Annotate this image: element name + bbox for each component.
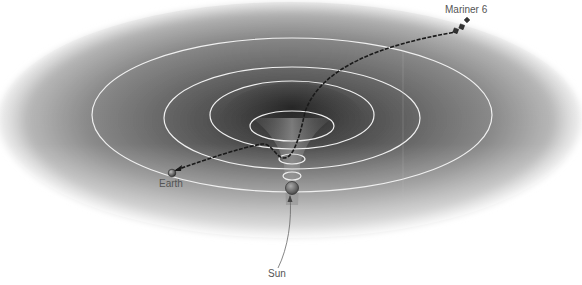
sun-icon	[286, 182, 299, 195]
earth-icon	[168, 169, 176, 177]
spacecraft-icon	[464, 17, 470, 23]
mariner-label: Mariner 6	[445, 4, 488, 15]
earth-label: Earth	[159, 178, 183, 189]
sun-label: Sun	[268, 268, 286, 279]
gravity-well-diagram: Mariner 6 Earth Sun	[0, 0, 582, 285]
